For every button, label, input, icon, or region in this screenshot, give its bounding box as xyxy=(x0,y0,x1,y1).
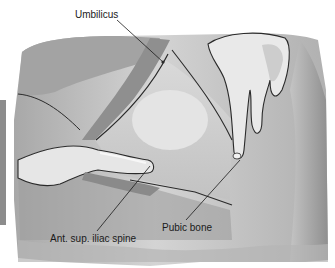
umbilicus-marker xyxy=(161,60,164,63)
left-edge-bar xyxy=(0,100,6,225)
belly-highlight xyxy=(132,90,208,150)
anatomy-figure: Umbilicus Ant. sup. iliac spine Pubic bo… xyxy=(0,0,335,268)
fingertip-pubic xyxy=(233,153,241,159)
label-pubic-bone: Pubic bone xyxy=(162,222,212,234)
label-ant-sup-iliac-spine: Ant. sup. iliac spine xyxy=(50,233,136,245)
label-umbilicus: Umbilicus xyxy=(75,9,118,21)
